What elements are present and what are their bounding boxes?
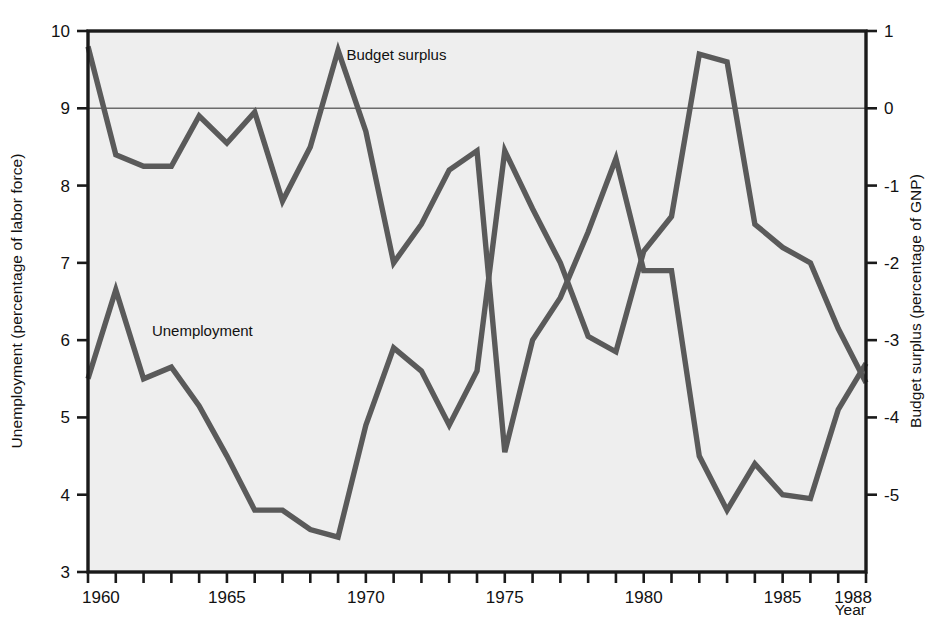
right-tick-label: 0 [884, 99, 893, 118]
x-tick-label: 1980 [625, 588, 663, 607]
left-tick-label: 4 [61, 486, 70, 505]
x-tick-label: 1965 [208, 588, 246, 607]
x-tick-label: 1970 [347, 588, 385, 607]
left-tick-label: 10 [51, 22, 70, 41]
right-axis-title: Budget surplus (percentage of GNP) [907, 174, 924, 428]
left-tick-label: 6 [61, 331, 70, 350]
chart-figure: 345678910 -5-4-3-2-101 19601965197019751… [0, 0, 938, 629]
left-tick-label: 8 [61, 177, 70, 196]
plot-area-background [88, 31, 866, 572]
right-tick-label: 1 [884, 22, 893, 41]
x-tick-label: 1975 [486, 588, 524, 607]
right-tick-label: -5 [884, 486, 899, 505]
x-tick-label: 1960 [82, 588, 120, 607]
right-tick-label: -2 [884, 254, 899, 273]
series-annotation-budget-surplus: Budget surplus [346, 46, 446, 63]
left-tick-label: 7 [61, 254, 70, 273]
dual-axis-line-chart: 345678910 -5-4-3-2-101 19601965197019751… [0, 0, 938, 629]
left-tick-label: 3 [61, 563, 70, 582]
series-annotation-unemployment: Unemployment [152, 322, 254, 339]
right-tick-label: -1 [884, 177, 899, 196]
x-axis-title: Year [835, 601, 866, 618]
right-tick-label: -3 [884, 331, 899, 350]
left-tick-label: 9 [61, 99, 70, 118]
left-tick-label: 5 [61, 408, 70, 427]
right-tick-label: -4 [884, 408, 899, 427]
left-axis-title: Unemployment (percentage of labor force) [8, 153, 25, 448]
x-tick-label: 1985 [764, 588, 802, 607]
